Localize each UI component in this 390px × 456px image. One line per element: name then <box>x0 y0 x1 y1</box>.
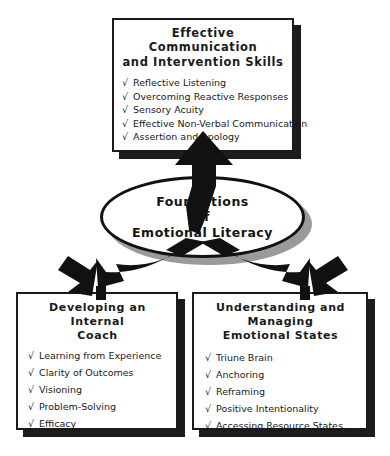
node-left-title-line1: Developing an Internal <box>24 301 171 329</box>
list-item: √Positive Intentionality <box>205 402 362 415</box>
list-item: √Visioning <box>28 383 171 396</box>
check-icon: √ <box>122 76 133 89</box>
list-item: √Sensory Acuity <box>122 103 287 116</box>
check-icon: √ <box>122 103 133 116</box>
diagram-canvas: Developing an Internal Coach √Learning f… <box>0 0 390 456</box>
node-top-list: √Reflective Listening √Overcoming Reacti… <box>119 76 287 143</box>
node-effective-communication-and-intervention-skills[interactable]: Effective Communication and Intervention… <box>112 18 294 152</box>
check-icon: √ <box>205 419 216 432</box>
list-item: √Clarity of Outcomes <box>28 366 171 379</box>
node-top-title-line1: Effective Communication <box>119 26 287 55</box>
hub-label-line2: of <box>132 209 273 224</box>
node-top-title: Effective Communication and Intervention… <box>119 26 287 69</box>
check-icon: √ <box>28 383 39 396</box>
list-item: √Accessing Resource States <box>205 419 362 432</box>
list-item: √Anchoring <box>205 368 362 381</box>
node-right-title-line1: Understanding and Managing <box>199 301 362 329</box>
list-item: √Effective Non-Verbal Communication <box>122 117 287 130</box>
list-item: √Triune Brain <box>205 351 362 364</box>
hub-label-line3: Emotional Literacy <box>132 225 273 240</box>
list-item-label: Reflective Listening <box>133 77 226 88</box>
check-icon: √ <box>28 366 39 379</box>
list-item-label: Reframing <box>216 386 265 397</box>
list-item-label: Positive Intentionality <box>216 403 319 414</box>
node-understanding-and-managing-emotional-states[interactable]: Understanding and Managing Emotional Sta… <box>192 292 368 430</box>
node-right-list: √Triune Brain √Anchoring √Reframing √Pos… <box>199 351 362 432</box>
list-item-label: Triune Brain <box>216 352 273 363</box>
list-item-label: Efficacy <box>39 418 76 429</box>
list-item: √Reframing <box>205 385 362 398</box>
check-icon: √ <box>28 349 39 362</box>
list-item: √Overcoming Reactive Responses <box>122 90 287 103</box>
list-item: √Efficacy <box>28 417 171 430</box>
list-item-label: Learning from Experience <box>39 350 161 361</box>
node-left-title-line2: Coach <box>24 329 171 343</box>
list-item-label: Assertion and Apology <box>133 131 240 142</box>
check-icon: √ <box>28 400 39 413</box>
check-icon: √ <box>205 368 216 381</box>
check-icon: √ <box>205 385 216 398</box>
check-icon: √ <box>122 117 133 130</box>
check-icon: √ <box>205 351 216 364</box>
check-icon: √ <box>122 90 133 103</box>
list-item-label: Visioning <box>39 384 82 395</box>
node-left-list: √Learning from Experience √Clarity of Ou… <box>24 349 171 430</box>
check-icon: √ <box>205 402 216 415</box>
hub-label: Foundations of Emotional Literacy <box>132 194 273 240</box>
node-right-title: Understanding and Managing Emotional Sta… <box>199 301 362 342</box>
list-item-label: Sensory Acuity <box>133 104 204 115</box>
node-developing-an-internal-coach[interactable]: Developing an Internal Coach √Learning f… <box>16 292 178 430</box>
list-item: √Learning from Experience <box>28 349 171 362</box>
check-icon: √ <box>28 417 39 430</box>
list-item-label: Anchoring <box>216 369 264 380</box>
check-icon: √ <box>122 130 133 143</box>
list-item: √Reflective Listening <box>122 76 287 89</box>
list-item-label: Clarity of Outcomes <box>39 367 134 378</box>
list-item: √Assertion and Apology <box>122 130 287 143</box>
list-item-label: Problem-Solving <box>39 401 116 412</box>
node-right-title-line2: Emotional States <box>199 329 362 343</box>
hub-label-line1: Foundations <box>132 194 273 209</box>
node-top-title-line2: and Intervention Skills <box>119 55 287 69</box>
list-item: √Problem-Solving <box>28 400 171 413</box>
list-item-label: Accessing Resource States <box>216 420 343 431</box>
list-item-label: Overcoming Reactive Responses <box>133 91 288 102</box>
list-item-label: Effective Non-Verbal Communication <box>133 118 307 129</box>
hub-foundations-of-emotional-literacy[interactable]: Foundations of Emotional Literacy <box>100 176 305 258</box>
node-left-title: Developing an Internal Coach <box>24 301 171 342</box>
